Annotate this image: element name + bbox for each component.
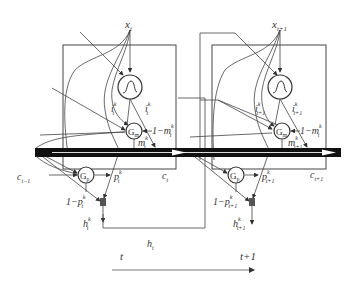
timeline-label-t1: t+1 xyxy=(240,250,256,262)
label-p-t: pkt xyxy=(113,169,122,184)
label-m-t: mkt xyxy=(138,135,148,150)
label-c-t: ct xyxy=(162,170,168,183)
label-h-t1-k: hkt+1 xyxy=(233,216,245,231)
sigmoid-gate-icon xyxy=(118,75,142,99)
label-m-t1: mkt+1 xyxy=(288,135,303,150)
cell-t xyxy=(40,30,205,228)
label-h-t: ht xyxy=(147,238,154,251)
label-h-t-k: hkt xyxy=(83,216,91,231)
label-i-t1-right: ikt+1 xyxy=(292,101,302,116)
label-one-minus-p-t: 1−pkt xyxy=(66,194,86,209)
label-i-t1-left: ikt+1 xyxy=(255,101,265,116)
label-i-t-right: ikt xyxy=(145,101,151,116)
label-one-minus-m-t1: 1−mkt xyxy=(300,123,322,138)
label-x-t: xt xyxy=(124,18,133,33)
label-c-t-minus-1: ct−1 xyxy=(17,171,30,184)
output-node xyxy=(100,198,106,206)
timeline-label-t: t xyxy=(120,250,124,262)
label-c-t1: ct+1 xyxy=(310,169,323,182)
recurrent-cell-diagram: xt ikt ikt Gm 1−mkt mkt Gp pkt 1−pkt hkt… xyxy=(0,0,344,288)
label-one-minus-m-t: 1−mkt xyxy=(152,123,174,138)
label-one-minus-p-t1: 1−pkt+1 xyxy=(213,194,237,209)
label-p-t1: pkt+1 xyxy=(261,169,274,184)
label-x-t1: xt+1 xyxy=(271,18,287,33)
sigmoid-gate-icon xyxy=(268,75,292,99)
output-node xyxy=(249,198,255,206)
